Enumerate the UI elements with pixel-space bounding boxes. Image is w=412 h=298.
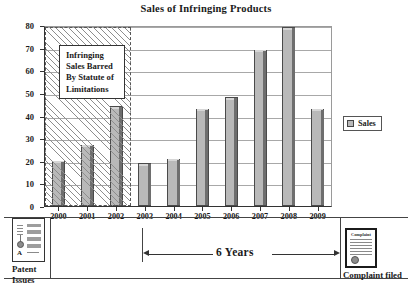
x-axis-tick-mark: [318, 207, 319, 211]
bar-2003: [138, 163, 151, 206]
y-axis-tick-label: 0: [0, 202, 34, 212]
x-axis-tick-mark: [87, 207, 88, 211]
span-arrow-right-icon: [334, 250, 340, 256]
footer-top-rule: [4, 217, 408, 218]
bar-2009: [311, 109, 324, 206]
callout-line-3: By Statute of: [66, 72, 119, 83]
bar-2002: [110, 106, 123, 206]
footer-left-divider: [50, 217, 51, 278]
x-axis-tick-mark: [231, 207, 232, 211]
x-axis-tick-mark: [202, 207, 203, 211]
y-axis-tick-label: 40: [0, 112, 34, 122]
bar-2005: [196, 109, 209, 206]
legend-label-sales: Sales: [358, 119, 376, 128]
x-axis-tick-mark: [58, 207, 59, 211]
bar-2000: [52, 161, 65, 206]
y-axis-tick-label: 80: [0, 21, 34, 31]
span-end-tick: [340, 228, 341, 262]
complaint-document-icon: Complaint: [345, 228, 377, 268]
chart-legend: Sales: [343, 116, 382, 131]
y-axis-tick-label: 70: [0, 44, 34, 54]
callout-line-4: Limitations: [66, 84, 119, 95]
span-start-tick: [142, 228, 143, 262]
patent-caption-line-1: Patent: [12, 264, 36, 275]
page-title: Sales of Infringing Products: [0, 3, 412, 14]
callout-line-2: Sales Barred: [66, 61, 119, 72]
bar-2007: [254, 50, 267, 206]
x-axis-tick-mark: [145, 207, 146, 211]
complaint-filed-caption: Complaint filed: [343, 270, 402, 281]
patent-issues-caption: Patent Issues: [12, 264, 36, 286]
patent-caption-line-2: Issues: [12, 275, 36, 286]
x-axis-tick-mark: [260, 207, 261, 211]
barred-callout-box: Infringing Sales Barred By Statute of Li…: [59, 45, 125, 99]
complaint-doc-title: Complaint: [350, 232, 372, 237]
y-axis-tick-mark: [40, 207, 44, 208]
x-axis-tick-mark: [116, 207, 117, 211]
y-axis-tick-label: 60: [0, 66, 34, 76]
bar-2004: [167, 159, 180, 207]
x-axis-tick-mark: [289, 207, 290, 211]
y-axis-tick-label: 10: [0, 179, 34, 189]
y-axis-tick-label: 30: [0, 134, 34, 144]
legend-swatch-icon: [347, 120, 354, 127]
y-axis-tick-label: 50: [0, 89, 34, 99]
bar-2008: [282, 27, 295, 206]
span-line-left: [149, 254, 213, 255]
y-axis-tick-label: 20: [0, 157, 34, 167]
x-axis-tick-mark: [174, 207, 175, 211]
plot-area: Infringing Sales Barred By Statute of Li…: [44, 26, 332, 207]
bar-2001: [81, 145, 94, 206]
callout-line-1: Infringing: [66, 50, 119, 61]
span-label-6-years: 6 Years: [216, 246, 254, 258]
span-line-right: [272, 254, 334, 255]
bar-2006: [225, 97, 238, 206]
chart-screenshot: Sales of Infringing Products 01020304050…: [0, 0, 412, 298]
patent-document-icon: A: [12, 218, 45, 262]
